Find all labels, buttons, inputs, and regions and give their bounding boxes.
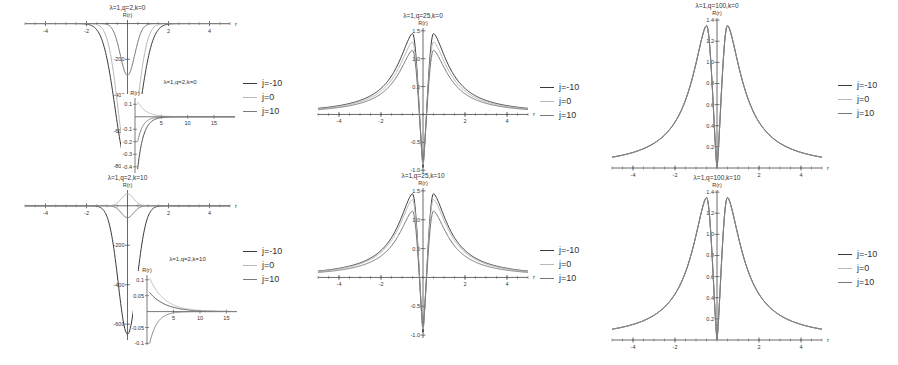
x-tick-label: 4 xyxy=(799,344,802,350)
chart-panel-6: λ=1,q=100,k=10R(r)r-4-2240.20.40.60.81.0… xyxy=(0,0,898,365)
x-axis-label: r xyxy=(827,337,829,343)
legend-item: j=-10 xyxy=(838,247,877,261)
legend-label: j=-10 xyxy=(857,249,877,259)
y-tick-label: 0.8 xyxy=(706,252,714,258)
y-tick-label: 0.2 xyxy=(706,316,714,322)
legend-item: j=10 xyxy=(838,275,877,289)
y-tick-label: 1.2 xyxy=(706,210,714,216)
legend-swatch xyxy=(838,282,852,283)
legend-label: j=0 xyxy=(857,263,869,273)
legend-swatch xyxy=(838,268,852,269)
legend: j=-10j=0j=10 xyxy=(838,247,877,289)
x-tick-label: 2 xyxy=(757,344,760,350)
legend-item: j=0 xyxy=(838,261,877,275)
legend-label: j=10 xyxy=(857,277,874,287)
chart-title: λ=1,q=100,k=10 xyxy=(694,174,741,182)
y-axis-label: R(r) xyxy=(712,182,722,188)
plot-area: λ=1,q=100,k=10R(r)r-4-2240.20.40.60.81.0… xyxy=(0,0,898,365)
y-tick-label: 1.0 xyxy=(706,231,714,237)
y-tick-label: 1.4 xyxy=(706,189,714,195)
x-tick-label: -2 xyxy=(673,344,678,350)
x-tick-label: -4 xyxy=(631,344,636,350)
legend-swatch xyxy=(838,254,852,255)
y-tick-label: 0.4 xyxy=(706,295,714,301)
